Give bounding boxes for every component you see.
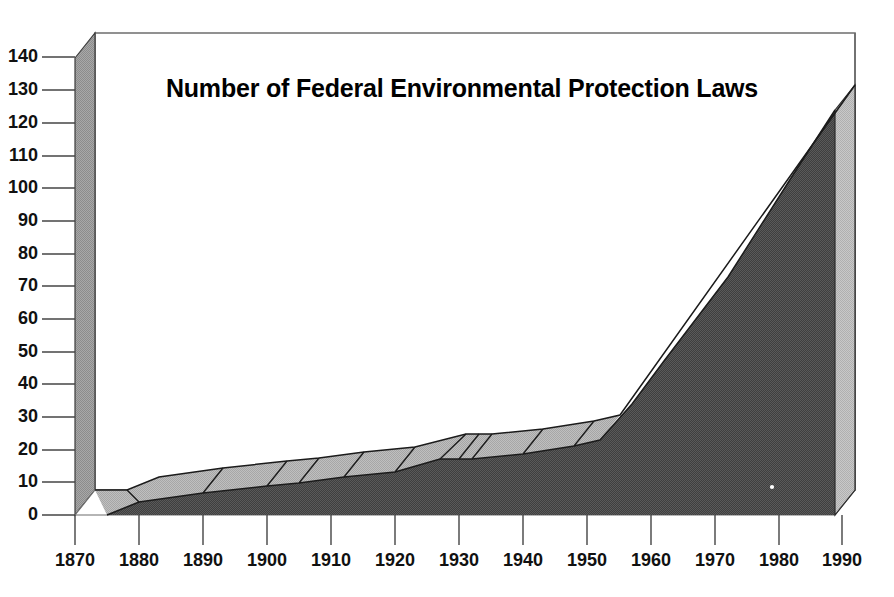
y-tick-label-10: 10 bbox=[18, 471, 38, 491]
y-tick-label-50: 50 bbox=[18, 341, 38, 361]
x-axis: 1870 1880 1890 1900 1910 1920 1930 1940 … bbox=[55, 515, 862, 570]
x-tick-group-1910: 1910 bbox=[311, 515, 351, 570]
x-tick-label-1890: 1890 bbox=[183, 550, 223, 570]
y-tick-group-110: 110 bbox=[9, 145, 75, 165]
x-tick-label-1950: 1950 bbox=[567, 550, 607, 570]
y-tick-group-70: 70 bbox=[18, 275, 75, 295]
area-chart-3d: 140 130 120 110 100 90 80 70 60 50 40 30… bbox=[0, 0, 894, 597]
y-tick-group-130: 130 bbox=[8, 79, 75, 99]
y-tick-group-60: 60 bbox=[18, 308, 75, 328]
y-tick-group-40: 40 bbox=[18, 373, 75, 393]
x-tick-group-1870: 1870 bbox=[55, 515, 95, 570]
x-tick-group-1960: 1960 bbox=[631, 515, 671, 570]
chart-container: 140 130 120 110 100 90 80 70 60 50 40 30… bbox=[0, 0, 894, 597]
y-tick-label-120: 120 bbox=[8, 112, 38, 132]
x-tick-group-1970: 1970 bbox=[695, 515, 735, 570]
y-tick-group-50: 50 bbox=[18, 341, 75, 361]
y-tick-group-100: 100 bbox=[8, 177, 75, 197]
area-series-3d bbox=[95, 85, 855, 515]
x-tick-group-1950: 1950 bbox=[567, 515, 607, 570]
x-tick-label-1880: 1880 bbox=[119, 550, 159, 570]
y-tick-label-90: 90 bbox=[18, 210, 38, 230]
x-tick-label-1980: 1980 bbox=[759, 550, 799, 570]
y-tick-group-10: 10 bbox=[18, 471, 75, 491]
y-tick-label-30: 30 bbox=[18, 406, 38, 426]
y-tick-label-130: 130 bbox=[8, 79, 38, 99]
x-tick-label-1960: 1960 bbox=[631, 550, 671, 570]
x-tick-group-1990: 1990 bbox=[822, 515, 862, 570]
x-tick-group-1900: 1900 bbox=[247, 515, 287, 570]
x-tick-group-1980: 1980 bbox=[759, 515, 799, 570]
x-tick-group-1890: 1890 bbox=[183, 515, 223, 570]
x-tick-label-1920: 1920 bbox=[375, 550, 415, 570]
area-right-side-face bbox=[835, 85, 855, 515]
x-tick-label-1930: 1930 bbox=[439, 550, 479, 570]
x-tick-label-1990: 1990 bbox=[822, 550, 862, 570]
y-tick-group-120: 120 bbox=[8, 112, 75, 132]
y-tick-group-140: 140 bbox=[8, 46, 75, 66]
y-tick-label-20: 20 bbox=[18, 439, 38, 459]
chart-title: Number of Federal Environmental Protecti… bbox=[166, 74, 758, 102]
y-tick-label-100: 100 bbox=[8, 177, 38, 197]
y-tick-label-0: 0 bbox=[28, 504, 38, 524]
x-tick-label-1970: 1970 bbox=[695, 550, 735, 570]
x-tick-group-1940: 1940 bbox=[503, 515, 543, 570]
x-tick-label-1870: 1870 bbox=[55, 550, 95, 570]
y-tick-label-110: 110 bbox=[9, 145, 38, 165]
y-tick-group-90: 90 bbox=[18, 210, 75, 230]
y-tick-label-60: 60 bbox=[18, 308, 38, 328]
x-tick-group-1920: 1920 bbox=[375, 515, 415, 570]
y-tick-label-80: 80 bbox=[18, 243, 38, 263]
left-wall-3d bbox=[75, 33, 95, 515]
x-tick-label-1900: 1900 bbox=[247, 550, 287, 570]
y-tick-group-30: 30 bbox=[18, 406, 75, 426]
x-tick-group-1930: 1930 bbox=[439, 515, 479, 570]
y-tick-group-80: 80 bbox=[18, 243, 75, 263]
scan-artifact-speck bbox=[770, 485, 774, 489]
y-tick-group-20: 20 bbox=[18, 439, 75, 459]
x-tick-label-1910: 1910 bbox=[311, 550, 351, 570]
y-tick-label-140: 140 bbox=[8, 46, 38, 66]
y-tick-group-0: 0 bbox=[28, 504, 75, 524]
y-tick-label-40: 40 bbox=[18, 373, 38, 393]
x-tick-label-1940: 1940 bbox=[503, 550, 543, 570]
x-tick-group-1880: 1880 bbox=[119, 515, 159, 570]
y-tick-label-70: 70 bbox=[18, 275, 38, 295]
y-axis: 140 130 120 110 100 90 80 70 60 50 40 30… bbox=[8, 46, 75, 524]
